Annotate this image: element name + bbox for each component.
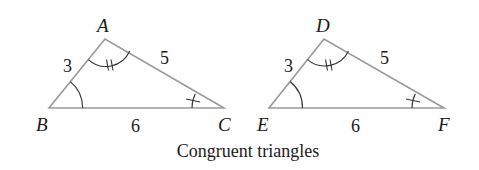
triangle-def-outline	[269, 39, 444, 108]
vertex-label-a: A	[95, 15, 109, 36]
side-label-ac: 5	[160, 48, 169, 68]
vertex-label-c: C	[218, 114, 231, 135]
angle-b-arc	[70, 82, 82, 108]
vertex-label-f: F	[437, 114, 450, 135]
side-label-ab: 3	[63, 56, 72, 76]
side-label-de: 3	[284, 56, 293, 76]
congruent-triangles-diagram: A B C 3 5 6 D E F 3 5 6 Congruent triang…	[0, 0, 479, 170]
triangle-abc-outline	[49, 39, 224, 108]
triangle-abc: A B C 3 5 6	[36, 15, 231, 136]
figure-caption: Congruent triangles	[177, 141, 319, 161]
vertex-label-b: B	[36, 114, 48, 135]
side-label-bc: 6	[131, 116, 140, 136]
side-label-df: 5	[380, 48, 389, 68]
angle-a-arc	[88, 51, 129, 66]
vertex-label-d: D	[315, 15, 330, 36]
angle-d-tick-1	[326, 60, 328, 71]
vertex-label-e: E	[256, 114, 269, 135]
angle-a-tick-1	[107, 60, 109, 71]
triangle-def: D E F 3 5 6	[256, 15, 450, 136]
side-label-ef: 6	[351, 116, 360, 136]
angle-e-arc	[290, 82, 303, 109]
angle-a-tick-2	[111, 60, 113, 71]
